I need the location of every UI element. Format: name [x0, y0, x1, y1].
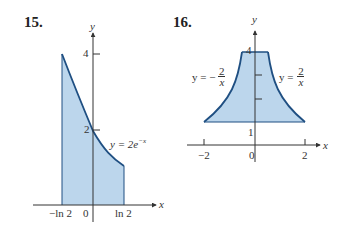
x-tick-label-0-16: 0 — [249, 149, 255, 161]
y-tick-label-1-16: 1 — [248, 126, 254, 138]
right-curve-label-16: y = 2 x — [279, 66, 304, 87]
x-axis-label-16: x — [323, 139, 328, 151]
y-axis-label-16: y — [252, 13, 257, 25]
fraction: 2 x — [218, 66, 225, 87]
x-axis-label-15: x — [159, 198, 164, 210]
x-tick-label-neg2: −2 — [198, 149, 210, 161]
left-curve-label-16: y = − 2 x — [192, 66, 225, 87]
x-tick-label-ln2: ln 2 — [115, 207, 132, 219]
y-tick-label-4-16: 4 — [246, 44, 252, 56]
fraction: 2 x — [297, 66, 304, 87]
figures-canvas — [0, 0, 346, 231]
x-tick-label-neg-ln2: −ln 2 — [49, 207, 72, 219]
curve-label-15: y = 2e−x — [110, 137, 146, 150]
x-tick-label-2: 2 — [302, 149, 308, 161]
y-tick-label-4: 4 — [83, 47, 89, 59]
y-tick-label-2: 2 — [84, 123, 90, 135]
figure-16 — [187, 31, 320, 162]
figure-15 — [33, 33, 156, 222]
y-axis-label-15: y — [90, 20, 95, 32]
x-tick-label-0-15: 0 — [83, 207, 89, 219]
